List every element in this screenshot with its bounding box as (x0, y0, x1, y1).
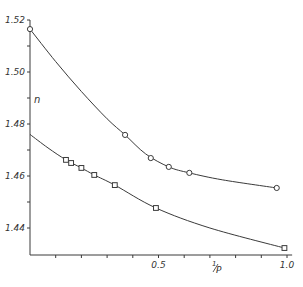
square-marker (154, 206, 159, 211)
square-marker (112, 183, 117, 188)
square-marker (64, 157, 69, 162)
y-tick-label: 1.50 (5, 67, 25, 77)
x-axis-label-denominator: P (216, 265, 222, 275)
square-marker (69, 161, 74, 166)
circle-marker (274, 185, 279, 190)
lower-curve (30, 134, 284, 248)
y-tick-label: 1.52 (5, 15, 25, 25)
y-axis-label: n (34, 94, 40, 105)
y-tick-label: 1.44 (5, 223, 25, 233)
square-marker (92, 173, 97, 178)
curves (30, 29, 284, 248)
square-marker (282, 246, 287, 251)
refractive-index-chart: 1.521.501.481.461.440.51.0 n 1 P (0, 0, 303, 287)
y-tick-label: 1.48 (5, 119, 25, 129)
x-axis-label: 1 P (212, 260, 222, 275)
circle-marker (187, 170, 192, 175)
y-tick-label: 1.46 (5, 171, 25, 181)
data-markers (27, 27, 286, 251)
circle-marker (122, 132, 127, 137)
x-tick-label: 0.5 (151, 260, 166, 270)
circle-marker (27, 27, 32, 32)
circle-marker (148, 155, 153, 160)
square-marker (79, 166, 84, 171)
x-tick-label: 1.0 (280, 260, 295, 270)
circle-marker (166, 164, 171, 169)
upper-curve (30, 29, 277, 188)
